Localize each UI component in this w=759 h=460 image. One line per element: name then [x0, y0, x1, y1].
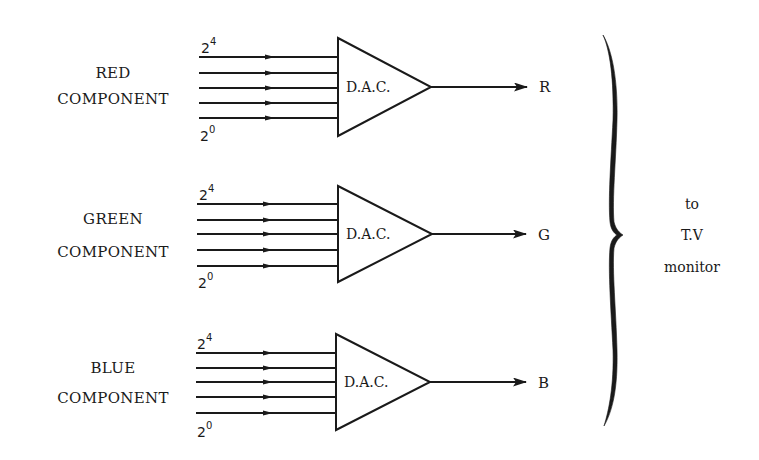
msb-label: 2 4: [201, 36, 216, 56]
svg-text:0: 0: [207, 271, 213, 282]
svg-text:0: 0: [206, 420, 212, 431]
svg-text:2: 2: [201, 40, 210, 56]
channel-label-line1: RED: [95, 64, 130, 82]
svg-text:0: 0: [209, 124, 215, 135]
svg-text:4: 4: [208, 183, 214, 194]
channel-blue: BLUE COMPONENT 2 4 2 0 D.A.C. B: [57, 332, 549, 440]
svg-text:2: 2: [198, 275, 207, 291]
lsb-label: 2 0: [197, 420, 212, 440]
msb-label: 2 4: [199, 183, 214, 203]
svg-text:2: 2: [199, 187, 208, 203]
destination-label: to T.V monitor: [664, 196, 720, 275]
msb-label: 2 4: [197, 332, 212, 352]
svg-text:4: 4: [206, 332, 212, 343]
output-label: G: [538, 226, 550, 244]
channel-label-line1: GREEN: [83, 210, 143, 228]
lsb-label: 2 0: [200, 124, 215, 144]
output-label: B: [538, 374, 549, 392]
svg-text:2: 2: [197, 424, 206, 440]
channel-green: GREEN COMPONENT 2 4 2 0 D.A.C. G: [57, 183, 550, 291]
channel-label-line2: COMPONENT: [57, 90, 168, 108]
destination-line1: to: [685, 196, 699, 212]
destination-line2: T.V: [681, 227, 704, 243]
lsb-label: 2 0: [198, 271, 213, 291]
input-bit-lines: [196, 353, 336, 413]
svg-text:2: 2: [197, 336, 206, 352]
channel-label-line1: BLUE: [91, 359, 136, 377]
dac-label: D.A.C.: [346, 79, 390, 95]
input-bit-lines: [199, 57, 338, 118]
output-label: R: [539, 78, 551, 96]
channel-red: RED COMPONENT 2 4 2 0 D.A.C. R: [57, 36, 551, 144]
input-bit-lines: [197, 204, 338, 266]
dac-label: D.A.C.: [344, 374, 388, 390]
svg-text:2: 2: [200, 128, 209, 144]
dac-rgb-diagram: RED COMPONENT 2 4 2 0 D.A.C. R GREEN COM…: [0, 0, 759, 460]
curly-brace: [603, 35, 623, 426]
destination-line3: monitor: [664, 259, 720, 275]
channel-label-line2: COMPONENT: [57, 389, 168, 407]
dac-label: D.A.C.: [346, 226, 390, 242]
svg-text:4: 4: [210, 36, 216, 47]
channel-label-line2: COMPONENT: [57, 243, 168, 261]
